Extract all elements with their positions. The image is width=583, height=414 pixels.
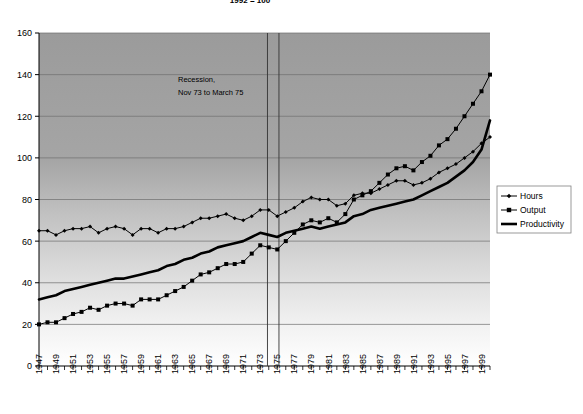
y-tick-label: 140 (17, 70, 32, 80)
x-tick-label: 1995 (443, 354, 453, 374)
x-tick-label: 1953 (85, 354, 95, 374)
data-point-marker (241, 260, 245, 264)
data-point-marker (462, 114, 466, 118)
data-point-marker (420, 160, 424, 164)
data-point-marker (148, 297, 152, 301)
chart-legend[interactable]: HoursOutputProductivity (497, 186, 571, 233)
data-point-marker (309, 218, 313, 222)
y-tick-label: 40 (22, 278, 32, 288)
x-tick-label: 1983 (341, 354, 351, 374)
data-point-marker (182, 285, 186, 289)
y-tick-label: 100 (17, 153, 32, 163)
x-tick-label: 1977 (289, 354, 299, 374)
data-point-marker (267, 245, 271, 249)
data-point-marker (258, 243, 262, 247)
data-point-marker (343, 212, 347, 216)
legend-label: Hours (520, 191, 543, 201)
x-tick-label: 1993 (426, 354, 436, 374)
data-point-marker (369, 189, 373, 193)
data-point-marker (105, 304, 109, 308)
y-tick-label: 160 (17, 28, 32, 38)
data-point-marker (54, 320, 58, 324)
x-tick-label: 1967 (204, 354, 214, 374)
legend-label: Output (520, 205, 546, 215)
y-tick-label: 120 (17, 112, 32, 122)
x-tick-label: 1965 (187, 354, 197, 374)
x-tick-label: 1961 (153, 354, 163, 374)
data-point-marker (428, 154, 432, 158)
x-tick-label: 1973 (255, 354, 265, 374)
x-tick-label: 1971 (238, 354, 248, 374)
data-point-marker (139, 297, 143, 301)
data-point-marker (403, 164, 407, 168)
y-tick-label: 20 (22, 320, 32, 330)
data-point-marker (63, 316, 67, 320)
data-point-marker (37, 322, 41, 326)
data-point-marker (326, 216, 330, 220)
x-tick-label: 1957 (119, 354, 129, 374)
data-point-marker (199, 272, 203, 276)
x-tick-label: 1985 (358, 354, 368, 374)
data-point-marker (165, 293, 169, 297)
y-tick-label: 80 (22, 195, 32, 205)
x-tick-label: 1979 (307, 354, 317, 374)
chart-container: 1992 = 100 020406080100120140160 1947194… (0, 0, 583, 414)
data-point-marker (437, 143, 441, 147)
data-point-marker (471, 102, 475, 106)
legend-label: Productivity (520, 219, 565, 229)
data-point-marker (114, 302, 118, 306)
data-point-marker (386, 173, 390, 177)
data-point-marker (80, 310, 84, 314)
x-tick-label: 1991 (409, 354, 419, 374)
y-tick-label: 0 (27, 361, 32, 371)
data-point-marker (216, 266, 220, 270)
chart-svg: 020406080100120140160 194719491951195319… (0, 0, 583, 414)
recession-annotation-line1: Recession, (178, 75, 215, 84)
y-tick-label: 60 (22, 237, 32, 247)
x-tick-label: 1959 (136, 354, 146, 374)
data-point-marker (46, 320, 50, 324)
data-point-marker (479, 89, 483, 93)
x-tick-label: 1963 (170, 354, 180, 374)
x-tick-label: 1975 (272, 354, 282, 374)
x-tick-label: 1949 (51, 354, 61, 374)
data-point-marker (156, 297, 160, 301)
data-point-marker (284, 239, 288, 243)
x-tick-label: 1987 (375, 354, 385, 374)
data-point-marker (454, 127, 458, 131)
recession-annotation-line2: Nov 73 to March 75 (178, 88, 243, 97)
data-point-marker (97, 308, 101, 312)
x-tick-label: 1951 (68, 354, 78, 374)
x-tick-label: 1955 (102, 354, 112, 374)
x-tick-label: 1989 (392, 354, 402, 374)
data-point-marker (122, 302, 126, 306)
data-point-marker (301, 222, 305, 226)
y-axis-ticks: 020406080100120140160 (17, 28, 39, 371)
data-point-marker (207, 270, 211, 274)
data-point-marker (275, 247, 279, 251)
data-point-marker (394, 166, 398, 170)
x-tick-label: 1969 (221, 354, 231, 374)
data-point-marker (352, 198, 356, 202)
data-point-marker (233, 262, 237, 266)
data-point-marker (131, 304, 135, 308)
data-point-marker (71, 312, 75, 316)
data-point-marker (250, 252, 254, 256)
x-tick-label: 1981 (324, 354, 334, 374)
data-point-marker (411, 168, 415, 172)
data-point-marker (488, 73, 492, 77)
x-tick-label: 1997 (460, 354, 470, 374)
data-point-marker (445, 137, 449, 141)
data-point-marker (377, 181, 381, 185)
data-point-marker (360, 193, 364, 197)
legend-marker-square (507, 208, 511, 212)
data-point-marker (318, 220, 322, 224)
x-tick-label: 1999 (477, 354, 487, 374)
data-point-marker (173, 289, 177, 293)
data-point-marker (190, 279, 194, 283)
data-point-marker (88, 306, 92, 310)
data-point-marker (224, 262, 228, 266)
